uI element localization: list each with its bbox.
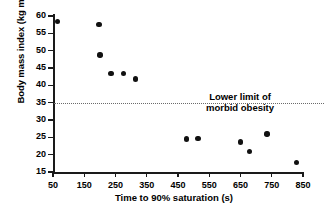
- x-axis-tick-label: 150: [69, 180, 99, 190]
- x-axis-tick: [52, 172, 53, 177]
- threshold-annotation-line2: morbid obesity: [182, 102, 298, 113]
- threshold-annotation-line1: Lower limit of: [182, 91, 298, 102]
- x-axis-tick-label: 350: [132, 180, 162, 190]
- y-axis-tick: [48, 137, 53, 138]
- y-axis-tick-label: 35: [26, 98, 46, 107]
- x-axis-tick-label: 50: [38, 180, 68, 190]
- data-point: [96, 22, 101, 27]
- x-axis-tick: [271, 172, 272, 177]
- data-point: [264, 131, 269, 136]
- y-axis-tick-label: 20: [26, 150, 46, 159]
- y-axis-tick: [48, 15, 53, 16]
- x-axis-tick: [115, 172, 116, 177]
- data-point: [184, 136, 189, 141]
- x-axis-tick-label: 750: [257, 180, 287, 190]
- x-axis-tick: [84, 172, 85, 177]
- data-point: [294, 160, 299, 165]
- y-axis-tick: [48, 119, 53, 120]
- x-axis-tick: [209, 172, 210, 177]
- y-axis-tick-label: 25: [26, 132, 46, 141]
- y-axis-tick: [48, 102, 53, 103]
- data-point: [108, 71, 113, 76]
- x-axis-tick-label: 850: [288, 180, 318, 190]
- data-point: [195, 136, 200, 141]
- y-axis-tick: [48, 50, 53, 51]
- y-axis-line: [53, 14, 55, 173]
- x-axis-tick: [177, 172, 178, 177]
- scatter-chart: Body mass index (kg m−2) 152025303540455…: [0, 0, 328, 214]
- y-axis-tick-label: 45: [26, 63, 46, 72]
- x-axis-tick: [146, 172, 147, 177]
- y-axis-tick-label: 30: [26, 115, 46, 124]
- x-axis-title: Time to 90% saturation (s): [40, 192, 308, 203]
- data-point: [55, 19, 60, 24]
- y-axis-title-text: Body mass index (kg m: [15, 0, 26, 104]
- y-axis-tick-label: 15: [26, 167, 46, 176]
- x-axis-tick-label: 450: [163, 180, 193, 190]
- x-axis-tick: [240, 172, 241, 177]
- x-axis-tick: [302, 172, 303, 177]
- threshold-annotation: Lower limit of morbid obesity: [182, 91, 298, 113]
- y-axis-tick-label: 55: [26, 28, 46, 37]
- y-axis-tick-label: 40: [26, 80, 46, 89]
- data-point: [97, 52, 102, 57]
- data-point: [238, 139, 243, 144]
- y-axis-tick: [48, 85, 53, 86]
- y-axis-tick: [48, 33, 53, 34]
- y-axis-tick-label: 60: [26, 11, 46, 20]
- x-axis-tick-label: 650: [226, 180, 256, 190]
- y-axis-tick: [48, 67, 53, 68]
- data-point: [133, 76, 138, 81]
- y-axis-tick-label: 50: [26, 46, 46, 55]
- data-point: [247, 149, 252, 154]
- data-point: [121, 71, 126, 76]
- x-axis-tick-label: 550: [194, 180, 224, 190]
- y-axis-tick: [48, 154, 53, 155]
- y-axis-title: Body mass index (kg m−2): [14, 0, 26, 126]
- x-axis-tick-label: 250: [101, 180, 131, 190]
